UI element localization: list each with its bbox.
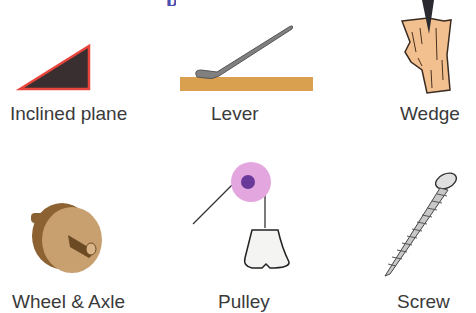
screw-icon (0, 0, 476, 313)
label-screw: Screw (397, 291, 450, 313)
